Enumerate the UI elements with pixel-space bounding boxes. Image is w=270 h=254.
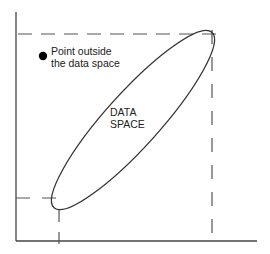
outside-point-label-line1: Point outside: [51, 45, 120, 57]
outside-point-dot: [39, 52, 47, 60]
data-space-label-line2: SPACE: [110, 118, 145, 130]
data-space-label: DATA SPACE: [110, 106, 145, 130]
data-space-label-line1: DATA: [110, 106, 145, 118]
outside-point-label: Point outside the data space: [51, 45, 120, 69]
outside-point-label-line2: the data space: [51, 57, 120, 69]
